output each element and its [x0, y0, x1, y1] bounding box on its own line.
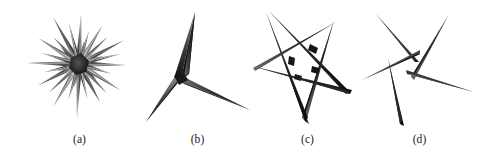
exploded-spikes-illustration: [362, 0, 477, 130]
figure-container: (a): [0, 0, 500, 157]
star-polyhedron-illustration: [22, 0, 137, 130]
panel-label-a: (a): [22, 132, 137, 146]
figure-panel-d: (d): [362, 0, 477, 157]
panel-label-d: (d): [362, 132, 477, 146]
figure-panel-c: (c): [250, 0, 365, 157]
panel-label-b: (b): [140, 132, 255, 146]
tripod-spike-illustration: [140, 0, 255, 130]
figure-panel-a: (a): [22, 0, 137, 157]
panel-label-c: (c): [250, 132, 365, 146]
pentagram-spikes-illustration: [250, 0, 365, 130]
figure-panel-b: (b): [140, 0, 255, 157]
